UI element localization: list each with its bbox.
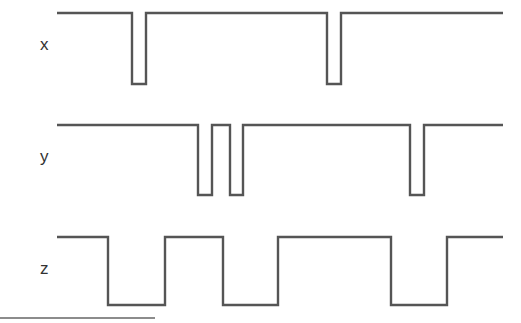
signal-label-y: y [40,147,49,166]
signal-y: y [40,125,503,195]
signal-z: z [40,237,503,305]
timing-diagram: x y z [0,0,521,323]
signal-x: x [40,13,503,84]
signal-label-z: z [40,259,49,278]
signal-label-x: x [40,35,49,54]
waveform-x [57,13,503,84]
waveform-y [57,125,503,195]
waveform-z [57,237,503,305]
